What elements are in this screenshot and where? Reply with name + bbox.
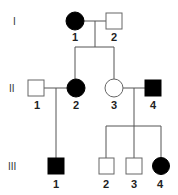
individual-III-3-unaffected-male	[126, 158, 142, 174]
connector-lines	[44, 21, 161, 158]
generation-label-III: III	[8, 161, 16, 172]
label-III-4: 4	[157, 178, 164, 190]
individual-I-1-affected-female	[66, 12, 84, 30]
generation-label-II: II	[9, 83, 15, 94]
individual-III-2-unaffected-male	[99, 158, 114, 174]
individual-III-4-affected-female	[153, 158, 170, 175]
label-II-3: 3	[111, 99, 117, 111]
pedigree-diagram: I II III 1 2 1 2 3 4 1 2 3 4	[0, 0, 178, 195]
label-II-1: 1	[34, 99, 40, 111]
individual-III-1-affected-male	[48, 158, 64, 174]
label-II-2: 2	[73, 99, 79, 111]
label-I-2: 2	[111, 31, 117, 43]
generation-label-I: I	[13, 16, 16, 27]
label-II-4: 4	[150, 99, 157, 111]
individual-II-3-unaffected-female	[105, 79, 123, 97]
individual-II-4-affected-male	[145, 80, 161, 96]
label-III-1: 1	[53, 178, 59, 190]
label-III-2: 2	[103, 178, 109, 190]
individual-II-2-affected-female	[67, 79, 85, 97]
individual-I-2-unaffected-male	[106, 13, 122, 29]
individual-II-1-unaffected-male	[28, 80, 44, 96]
label-I-1: 1	[72, 31, 78, 43]
label-III-3: 3	[131, 178, 137, 190]
